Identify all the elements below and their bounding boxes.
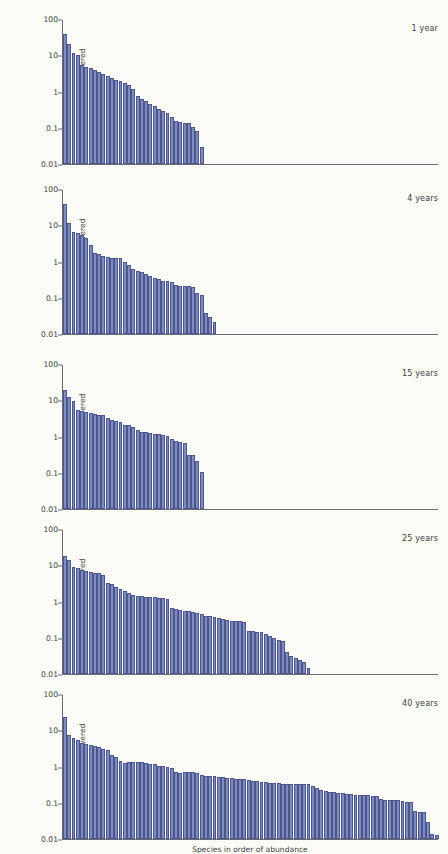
plot-area: 1001010.10.01% of total area covered25 y… (0, 520, 448, 670)
y-tick-mark (58, 840, 62, 841)
y-tick-mark (58, 803, 62, 804)
y-tick-label: 0.01 (41, 671, 58, 679)
y-tick-mark (58, 401, 62, 402)
plot-area: 1001010.10.01% of total area covered15 y… (0, 355, 448, 505)
y-tick-mark (58, 190, 62, 191)
y-tick-label: 10 (48, 52, 58, 60)
bar-series (63, 365, 438, 509)
bar-series (63, 695, 438, 839)
bar (200, 472, 204, 509)
y-tick-label: 0.01 (41, 506, 58, 514)
y-tick-label: 100 (44, 361, 59, 369)
plot-area: 1001010.10.01% of total area covered4 ye… (0, 180, 448, 330)
y-tick-label: 0.1 (46, 470, 58, 478)
axes: 1001010.10.01% of total area covered (62, 695, 438, 840)
y-tick-label: 100 (44, 16, 59, 24)
axes: 1001010.10.01% of total area covered (62, 365, 438, 510)
bar-series (63, 190, 438, 334)
y-tick-mark (58, 335, 62, 336)
panel-25-years: 1001010.10.01% of total area covered25 y… (0, 520, 448, 680)
y-tick-label: 100 (44, 691, 59, 699)
y-tick-label: 10 (48, 397, 58, 405)
y-tick-mark (58, 638, 62, 639)
y-tick-mark (58, 20, 62, 21)
y-tick-mark (58, 767, 62, 768)
y-tick-mark (58, 566, 62, 567)
y-tick-label: 0.01 (41, 331, 58, 339)
x-axis-line (62, 839, 438, 840)
axes: 1001010.10.01% of total area covered (62, 530, 438, 675)
y-tick-mark (58, 165, 62, 166)
y-tick-mark (58, 437, 62, 438)
y-tick-label: 0.1 (46, 125, 58, 133)
y-tick-label: 0.01 (41, 836, 58, 844)
panel-4-years: 1001010.10.01% of total area covered4 ye… (0, 180, 448, 340)
bar-series (63, 20, 438, 164)
y-tick-mark (58, 298, 62, 299)
panel-label: 4 years (407, 194, 438, 203)
bar-series (63, 530, 438, 674)
panel-label: 1 year (412, 24, 438, 33)
panel-label: 15 years (402, 369, 438, 378)
y-tick-label: 10 (48, 222, 58, 230)
y-tick-label: 0.1 (46, 635, 58, 643)
panel-15-years: 1001010.10.01% of total area covered15 y… (0, 355, 448, 515)
panel-label: 40 years (402, 699, 438, 708)
y-tick-mark (58, 695, 62, 696)
y-tick-mark (58, 128, 62, 129)
plot-area: 1001010.10.01% of total area covered1 ye… (0, 10, 448, 160)
y-tick-label: 0.1 (46, 295, 58, 303)
panel-1-year: 1001010.10.01% of total area covered1 ye… (0, 10, 448, 170)
bar (435, 835, 439, 839)
y-tick-mark (58, 530, 62, 531)
y-tick-label: 0.1 (46, 800, 58, 808)
y-tick-mark (58, 92, 62, 93)
y-tick-mark (58, 510, 62, 511)
bar (213, 322, 217, 334)
y-tick-mark (58, 226, 62, 227)
bar (307, 668, 311, 674)
figure-caption (403, 748, 447, 749)
x-axis-line (62, 509, 438, 510)
y-tick-label: 10 (48, 727, 58, 735)
plot-area: 1001010.10.01% of total area covered40 y… (0, 685, 448, 835)
y-tick-mark (58, 731, 62, 732)
y-tick-label: 10 (48, 562, 58, 570)
y-tick-mark (58, 365, 62, 366)
x-axis-line (62, 334, 438, 335)
x-axis-label: Species in order of abundance (62, 845, 438, 854)
axes: 1001010.10.01% of total area covered (62, 20, 438, 165)
bar (200, 147, 204, 164)
y-tick-mark (58, 473, 62, 474)
panel-40-years: 1001010.10.01% of total area covered40 y… (0, 685, 448, 845)
axes: 1001010.10.01% of total area covered (62, 190, 438, 335)
y-tick-mark (58, 262, 62, 263)
x-axis-line (62, 164, 438, 165)
panel-label: 25 years (402, 534, 438, 543)
y-tick-mark (58, 675, 62, 676)
x-axis-line (62, 674, 438, 675)
y-tick-label: 100 (44, 186, 59, 194)
y-tick-mark (58, 56, 62, 57)
y-tick-mark (58, 602, 62, 603)
y-tick-label: 0.01 (41, 161, 58, 169)
y-tick-label: 100 (44, 526, 59, 534)
